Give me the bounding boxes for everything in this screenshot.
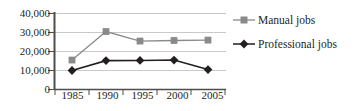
legend-marker-diamond (232, 37, 256, 51)
y-tick-label: 30,000 (4, 27, 50, 38)
line-chart-figure: 40,000 30,000 20,000 10,000 0 1985 1990 … (0, 0, 361, 111)
legend-item-manual-jobs: Manual jobs (232, 8, 361, 32)
x-tick-label: 1985 (55, 89, 90, 109)
legend-item-professional-jobs: Professional jobs (232, 32, 361, 56)
data-point-marker (68, 66, 77, 75)
legend-item-label: Professional jobs (256, 38, 337, 51)
data-point-marker (137, 38, 144, 45)
data-point-marker (205, 37, 212, 44)
data-point-marker (204, 65, 213, 74)
data-point-marker (170, 56, 179, 65)
y-tick-label: 0 (4, 84, 50, 95)
data-point-marker (136, 56, 145, 65)
plot-area: 40,000 30,000 20,000 10,000 0 1985 1990 … (0, 0, 232, 111)
y-tick-label: 10,000 (4, 65, 50, 76)
legend-marker-square (232, 13, 256, 27)
x-tick-label: 2005 (195, 89, 230, 109)
data-point-marker (69, 57, 76, 64)
data-point-marker (171, 37, 178, 44)
x-tick-label: 1990 (90, 89, 125, 109)
series-line (72, 32, 208, 61)
x-tick-labels: 1985 1990 1995 2000 2005 (55, 89, 230, 109)
y-tick-label: 40,000 (4, 8, 50, 19)
y-tick-labels: 40,000 30,000 20,000 10,000 0 (0, 0, 50, 111)
x-tick-label: 2000 (160, 89, 195, 109)
data-point-marker (103, 28, 110, 35)
data-point-marker (102, 56, 111, 65)
x-tick-label: 1995 (125, 89, 160, 109)
y-tick-label: 20,000 (4, 46, 50, 57)
legend-item-label: Manual jobs (256, 14, 315, 27)
legend: Manual jobs Professional jobs (232, 8, 361, 56)
